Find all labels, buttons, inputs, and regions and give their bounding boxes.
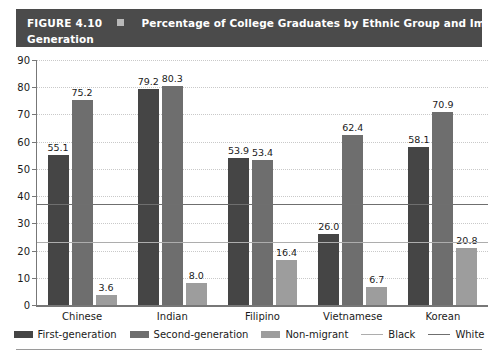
bar[interactable] xyxy=(432,112,453,305)
y-axis-tick-mark xyxy=(32,169,36,170)
chart-legend: First-generationSecond-generationNon-mig… xyxy=(16,326,482,342)
bar-column[interactable]: 62.4 xyxy=(342,60,363,305)
bar-value-label: 8.0 xyxy=(189,270,204,281)
bar-column[interactable]: 79.2 xyxy=(138,60,159,305)
legend-label: Black xyxy=(388,329,415,340)
figure-title-line-1: Percentage of College Graduates by Ethni… xyxy=(141,17,498,29)
bar-group: 58.170.920.8 xyxy=(398,60,488,305)
bar-column[interactable]: 55.1 xyxy=(48,60,69,305)
bar-value-label: 16.4 xyxy=(276,247,297,258)
bar-group-bars: 55.175.23.6 xyxy=(37,60,127,305)
bar-column[interactable]: 3.6 xyxy=(96,60,117,305)
y-axis-tick-mark xyxy=(32,196,36,197)
x-axis-category-label: Filipino xyxy=(245,311,280,322)
bar-group: 79.280.38.0 xyxy=(127,60,217,305)
figure-title-line-2: Generation xyxy=(27,33,472,47)
bar-group: 55.175.23.6 xyxy=(37,60,127,305)
legend-swatch-icon xyxy=(261,331,280,338)
bar[interactable] xyxy=(162,86,183,305)
bar-column[interactable]: 70.9 xyxy=(432,60,453,305)
bar[interactable] xyxy=(276,260,297,305)
bar-value-label: 53.9 xyxy=(228,145,249,156)
y-axis-tick-label: 20 xyxy=(17,245,30,256)
figure-header-line-1: FIGURE 4.10 Percentage of College Gradua… xyxy=(27,15,472,31)
legend-label: White xyxy=(455,329,484,340)
bar-group-bars: 53.953.416.4 xyxy=(217,60,307,305)
legend-line-icon xyxy=(361,334,383,335)
y-axis-tick-label: 50 xyxy=(17,163,30,174)
bar[interactable] xyxy=(72,100,93,305)
legend-item[interactable]: White xyxy=(428,329,484,340)
bar-value-label: 20.8 xyxy=(456,235,477,246)
bar-value-label: 6.7 xyxy=(369,274,384,285)
legend-item[interactable]: Second-generation xyxy=(130,329,249,340)
bar-value-label: 3.6 xyxy=(99,282,114,293)
legend-swatch-icon xyxy=(14,331,33,338)
x-axis-category-label: Korean xyxy=(426,311,461,322)
bar-column[interactable]: 6.7 xyxy=(366,60,387,305)
bar-groups: 55.175.23.679.280.38.053.953.416.426.062… xyxy=(37,60,488,305)
bar[interactable] xyxy=(48,155,69,305)
bar-column[interactable]: 8.0 xyxy=(186,60,207,305)
bar-value-label: 75.2 xyxy=(72,87,93,98)
bar-value-label: 55.1 xyxy=(48,142,69,153)
bar[interactable] xyxy=(456,248,477,305)
bar-column[interactable]: 53.4 xyxy=(252,60,273,305)
y-axis-tick-mark xyxy=(32,251,36,252)
figure-number: FIGURE 4.10 xyxy=(27,17,102,29)
y-axis-tick-mark xyxy=(32,278,36,279)
y-axis-tick-label: 80 xyxy=(17,82,30,93)
legend-label: Second-generation xyxy=(154,329,249,340)
bar-value-label: 80.3 xyxy=(162,73,183,84)
legend-line-icon xyxy=(428,334,450,335)
bar-value-label: 58.1 xyxy=(408,134,429,145)
bar-column[interactable]: 16.4 xyxy=(276,60,297,305)
bar-column[interactable]: 80.3 xyxy=(162,60,183,305)
x-axis-category-label: Chinese xyxy=(62,311,102,322)
bar-group: 26.062.46.7 xyxy=(308,60,398,305)
bar[interactable] xyxy=(252,160,273,305)
bar-column[interactable]: 20.8 xyxy=(456,60,477,305)
bar[interactable] xyxy=(186,283,207,305)
bar-group-bars: 26.062.46.7 xyxy=(308,60,398,305)
x-axis-line xyxy=(36,305,488,307)
square-bullet-icon xyxy=(117,19,124,26)
bar-column[interactable]: 75.2 xyxy=(72,60,93,305)
figure-header: FIGURE 4.10 Percentage of College Gradua… xyxy=(16,9,482,47)
legend-item[interactable]: Black xyxy=(361,329,415,340)
y-axis-tick-label: 10 xyxy=(17,272,30,283)
bar-value-label: 79.2 xyxy=(138,76,159,87)
bar-group-bars: 79.280.38.0 xyxy=(127,60,217,305)
legend-swatch-icon xyxy=(130,331,149,338)
bar-group: 53.953.416.4 xyxy=(217,60,307,305)
y-axis-tick-label: 0 xyxy=(24,300,30,311)
y-axis-tick-label: 60 xyxy=(17,136,30,147)
y-axis-tick-mark xyxy=(32,223,36,224)
bar[interactable] xyxy=(318,234,339,305)
x-axis-category-label: Vietnamese xyxy=(323,311,382,322)
bar[interactable] xyxy=(228,158,249,305)
bottom-divider xyxy=(16,349,482,350)
bar-value-label: 26.0 xyxy=(318,221,339,232)
legend-label: First-generation xyxy=(38,329,117,340)
bar[interactable] xyxy=(342,135,363,305)
bar-column[interactable]: 58.1 xyxy=(408,60,429,305)
y-axis-tick-mark xyxy=(32,305,36,306)
y-axis-tick-mark xyxy=(32,60,36,61)
legend-label: Non-migrant xyxy=(285,329,348,340)
bar-value-label: 53.4 xyxy=(252,147,273,158)
bar-value-label: 62.4 xyxy=(342,122,363,133)
bar[interactable] xyxy=(138,89,159,305)
y-axis-tick-mark xyxy=(32,114,36,115)
chart-plot-area: 0102030405060708090 55.175.23.679.280.38… xyxy=(36,60,488,306)
bar-value-label: 70.9 xyxy=(432,99,453,110)
bar-column[interactable]: 26.0 xyxy=(318,60,339,305)
bar-column[interactable]: 53.9 xyxy=(228,60,249,305)
y-axis-tick-label: 30 xyxy=(17,218,30,229)
legend-item[interactable]: Non-migrant xyxy=(261,329,348,340)
y-axis-tick-label: 70 xyxy=(17,109,30,120)
bar[interactable] xyxy=(96,295,117,305)
legend-item[interactable]: First-generation xyxy=(14,329,117,340)
bar[interactable] xyxy=(408,147,429,305)
bar[interactable] xyxy=(366,287,387,305)
